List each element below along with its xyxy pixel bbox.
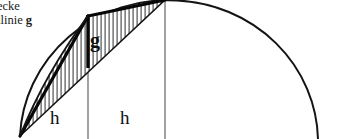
caption-line-1: eiecke [0,0,120,13]
caption-line-2: ndlinie g [0,13,120,27]
label-baseline-g: g [90,29,100,52]
label-height-left: h [50,107,60,129]
caption-line-2-prefix: ndlinie [0,13,26,27]
caption-text: eiecke ndlinie g [0,0,120,27]
geometry-figure: eiecke ndlinie g h h g [0,0,337,139]
caption-baseline-term: g [26,13,32,27]
label-height-right: h [120,107,130,129]
